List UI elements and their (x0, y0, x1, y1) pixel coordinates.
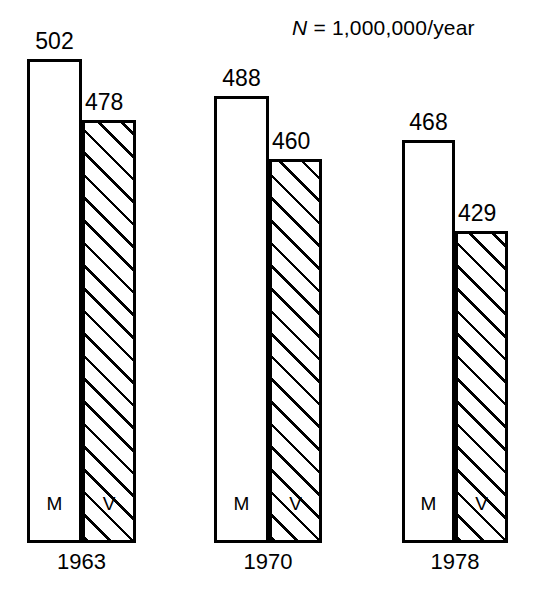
bar-1963-V: V (82, 120, 136, 543)
bar-series-label-1963-M: M (30, 493, 79, 514)
chart-annotation: N = 1,000,000/year (292, 16, 475, 40)
annotation-symbol: N (292, 16, 307, 39)
category-label-1978: 1978 (402, 551, 508, 573)
bar-1970-V: V (269, 159, 322, 543)
category-label-1963: 1963 (27, 551, 136, 573)
bar-1963-M: M (27, 59, 82, 543)
bar-series-label-1970-V: V (272, 493, 319, 514)
bar-value-1970-M: 488 (214, 67, 269, 90)
bar-series-label-1963-V: V (85, 493, 133, 514)
bar-1970-M: M (214, 96, 269, 543)
bar-series-label-1978-V: V (458, 493, 505, 514)
bar-value-1963-M: 502 (27, 30, 82, 53)
bar-1978-M: M (402, 140, 455, 543)
bar-chart: N = 1,000,000/year M 502 V 478 1963 M 48… (0, 0, 541, 594)
bar-value-1978-V: 429 (458, 202, 496, 225)
bar-1978-V: V (455, 231, 508, 543)
category-label-1970: 1970 (214, 551, 322, 573)
bar-series-label-1970-M: M (217, 493, 266, 514)
bar-value-1978-M: 468 (402, 111, 455, 134)
bar-value-1970-V: 460 (272, 130, 310, 153)
bar-series-label-1978-M: M (405, 493, 452, 514)
bar-value-1963-V: 478 (85, 91, 123, 114)
annotation-text: = 1,000,000/year (307, 16, 474, 39)
